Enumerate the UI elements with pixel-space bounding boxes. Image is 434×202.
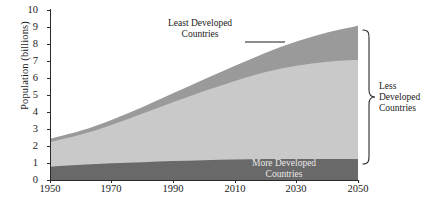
least-developed-line-1: Least Developed — [168, 18, 232, 29]
more-developed-countries-annotation: More Developed Countries — [252, 158, 316, 179]
less-developed-bracket — [363, 30, 375, 164]
less-developed-line-1: Less — [379, 81, 420, 92]
more-developed-line-1: More Developed — [252, 158, 316, 169]
least-developed-line-2: Countries — [168, 29, 232, 40]
less-developed-countries-annotation: Less Developed Countries — [379, 81, 420, 114]
less-developed-line-2: Developed — [379, 92, 420, 103]
less-developed-line-3: Countries — [379, 103, 420, 114]
least-developed-countries-annotation: Least Developed Countries — [168, 18, 232, 39]
y-axis-ticks — [47, 11, 50, 181]
more-developed-line-2: Countries — [252, 169, 316, 180]
population-projection-chart: Population (billions) 10 9 8 7 6 5 4 3 2… — [0, 0, 434, 202]
